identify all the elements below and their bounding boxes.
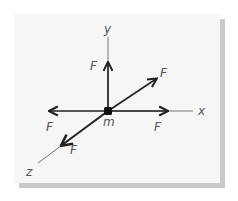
mass-label: m xyxy=(103,115,115,129)
z-axis-label: z xyxy=(25,165,33,179)
x-axis-label: x xyxy=(197,104,206,118)
force-label-back: F xyxy=(160,66,168,80)
force-arrow-back xyxy=(108,79,156,111)
force-label-up: F xyxy=(90,59,98,73)
mass-block xyxy=(104,107,112,115)
force-label-right: F xyxy=(154,120,162,134)
force-arrow-front xyxy=(62,111,108,145)
force-label-front: F xyxy=(70,143,78,157)
force-diagram: y x z m F F F F F xyxy=(0,0,238,201)
force-label-left: F xyxy=(46,120,54,134)
y-axis-label: y xyxy=(103,22,112,36)
